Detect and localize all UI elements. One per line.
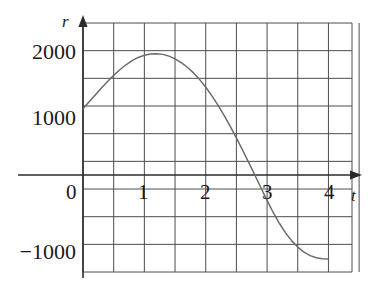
y-tick-label-2000: 2000 <box>22 41 76 63</box>
x-tick-label-2: 2 <box>200 182 211 203</box>
x-axis-label: t <box>351 187 356 204</box>
x-tick-label-4: 4 <box>324 182 335 203</box>
x-tick-label-0: 0 <box>66 182 77 203</box>
y-tick-label-minus-1000: −1000 <box>12 241 76 263</box>
grid-lines <box>83 23 359 272</box>
horizontal-grid-lines <box>83 23 352 272</box>
x-axis-arrow-icon <box>350 170 362 179</box>
y-axis-arrow-icon <box>78 15 87 27</box>
vertical-grid-lines <box>83 23 359 272</box>
x-tick-label-3: 3 <box>262 182 273 203</box>
x-tick-label-1: 1 <box>138 182 149 203</box>
y-axis-label: r <box>62 13 69 30</box>
chart-figure: r t 2000 1000 −1000 0 1 2 3 4 <box>0 0 376 289</box>
y-tick-label-1000: 1000 <box>22 107 76 129</box>
